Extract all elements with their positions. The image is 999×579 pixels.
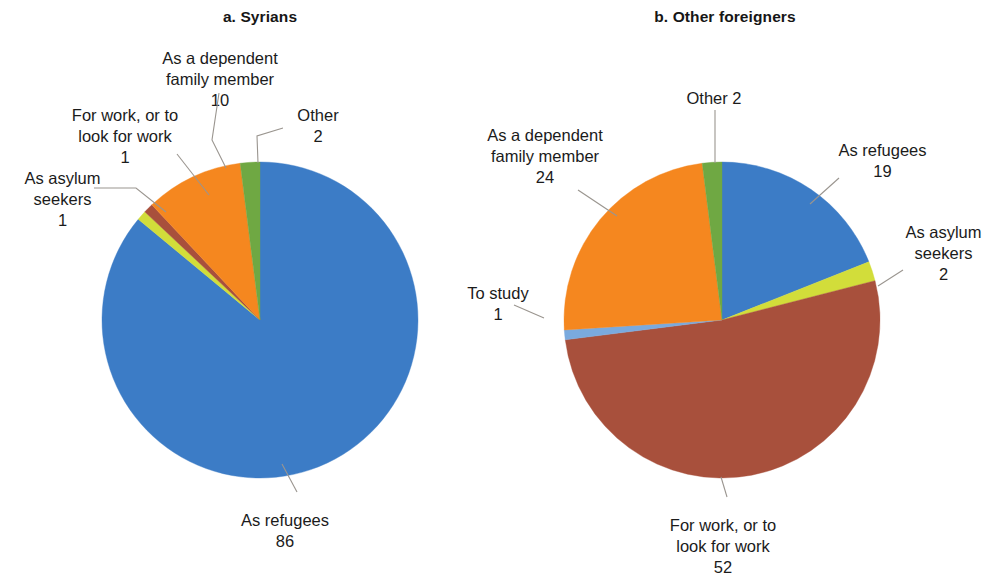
label-study-b: To study 1 — [443, 283, 553, 325]
label-refugees-a: As refugees 86 — [205, 510, 365, 552]
chart-b-title: b. Other foreigners — [610, 8, 840, 26]
chart-a-title: a. Syrians — [160, 8, 360, 26]
pie-chart-other-foreigners — [562, 160, 882, 480]
label-other-a: Other 2 — [278, 105, 358, 147]
label-work-b: For work, or to look for work 52 — [633, 515, 813, 578]
label-family-b: As a dependent family member 24 — [450, 125, 640, 188]
label-asylum-b: As asylum seekers 2 — [888, 222, 999, 285]
pie-chart-syrians — [100, 160, 420, 480]
label-work-a: For work, or to look for work 1 — [45, 105, 205, 168]
pie-slice-as-a-dependent-family-member — [564, 163, 722, 330]
leader-work-b — [721, 477, 727, 497]
label-asylum-a: As asylum seekers 1 — [0, 168, 125, 231]
label-family-a: As a dependent family member 10 — [125, 48, 315, 111]
figure-canvas: a. Syrians As a dependent family member … — [0, 0, 999, 579]
label-other-b: Other 2 — [664, 88, 764, 109]
label-refugees-b: As refugees 19 — [815, 140, 950, 182]
